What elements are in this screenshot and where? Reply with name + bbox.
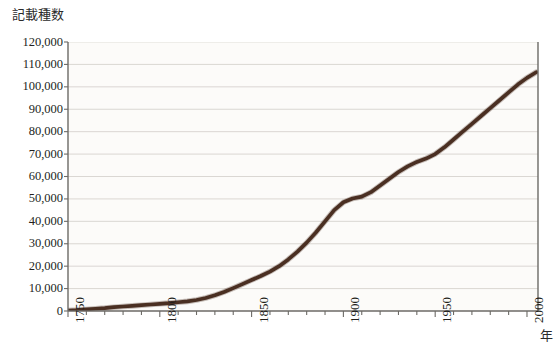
x-tick-label: 1750	[73, 297, 86, 323]
x-tick-label: 1950	[440, 297, 453, 323]
axis-ticks	[64, 42, 527, 317]
chart-page: 記載種数 010,00020,00030,00040,00050,00060,0…	[0, 0, 557, 355]
x-tick-label: 1850	[257, 297, 270, 323]
axis-lines	[68, 42, 538, 311]
x-tick-label: 1800	[165, 297, 178, 323]
x-tick-label: 1900	[348, 297, 361, 323]
x-tick-label: 2000	[532, 297, 545, 323]
x-axis-title: 年	[540, 325, 553, 344]
